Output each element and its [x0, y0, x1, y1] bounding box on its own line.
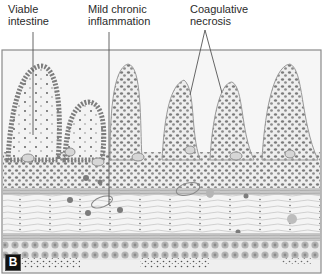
label-mild-chronic-inflammation: Mild chronic inflammation — [88, 3, 150, 27]
label-coagulative-necrosis: Coagulative necrosis — [190, 3, 248, 27]
label-viable-intestine: Viable intestine — [8, 3, 49, 27]
histology-illustration — [0, 0, 324, 275]
panel-label-badge: B — [5, 254, 21, 271]
